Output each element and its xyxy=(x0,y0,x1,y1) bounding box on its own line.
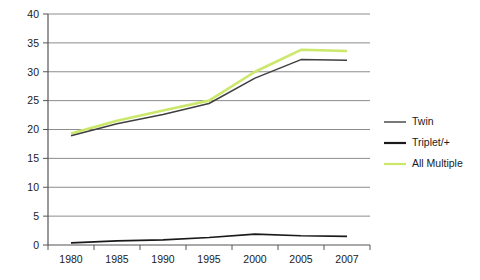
multiple-birth-rate-line-chart: 0510152025303540 19801985199019952000200… xyxy=(0,0,480,280)
x-tick-label: 1980 xyxy=(59,253,83,265)
x-tick-label: 1985 xyxy=(105,253,129,265)
x-tick-label: 2007 xyxy=(335,253,359,265)
y-tick-label: 15 xyxy=(27,152,39,164)
x-tick-label: 2000 xyxy=(243,253,267,265)
legend-label-twin: Twin xyxy=(412,115,434,127)
x-tick-label: 1995 xyxy=(197,253,221,265)
x-tick-label: 2005 xyxy=(289,253,313,265)
y-tick-label: 5 xyxy=(33,210,39,222)
y-tick-label: 35 xyxy=(27,37,39,49)
chart-background xyxy=(0,0,480,280)
y-tick-label: 30 xyxy=(27,66,39,78)
y-tick-label: 40 xyxy=(27,8,39,20)
y-tick-label: 25 xyxy=(27,94,39,106)
legend-label-all-multiple: All Multiple xyxy=(412,157,463,169)
y-tick-label: 10 xyxy=(27,181,39,193)
legend-label-triplet: Triplet/+ xyxy=(412,136,450,148)
x-tick-label: 1990 xyxy=(151,253,175,265)
y-tick-label: 0 xyxy=(33,239,39,251)
y-tick-label: 20 xyxy=(27,123,39,135)
